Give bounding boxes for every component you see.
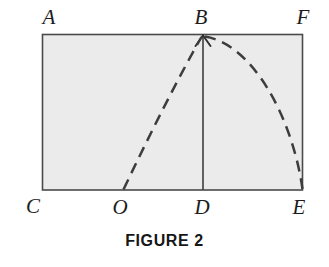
vertex-label-E: E (293, 197, 306, 218)
vertex-label-O: O (112, 197, 127, 218)
vertex-label-A: A (43, 7, 56, 28)
geometry-diagram (0, 0, 329, 267)
figure-2-illustration: A B F C O D E FIGURE 2 (0, 0, 329, 267)
figure-caption: FIGURE 2 (0, 232, 329, 250)
rectangle-ACEF (43, 35, 303, 191)
vertex-label-B: B (195, 7, 208, 28)
vertex-label-D: D (194, 197, 209, 218)
vertex-label-C: C (26, 196, 40, 217)
vertex-label-F: F (297, 7, 310, 28)
